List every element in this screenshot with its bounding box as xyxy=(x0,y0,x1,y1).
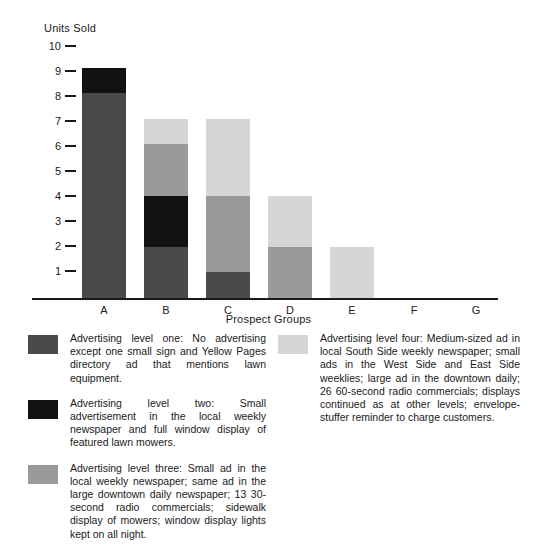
bar-stack xyxy=(330,247,374,298)
bar-segment-c-level-1 xyxy=(206,272,250,298)
bar-column-a xyxy=(82,40,126,298)
y-tick-label: 8 xyxy=(55,90,61,102)
bar-column-d xyxy=(268,40,312,298)
legend-item: Advertising level four: Medium-sized ad … xyxy=(278,332,520,424)
y-tick-label: 4 xyxy=(55,190,61,202)
bar-stack xyxy=(144,119,188,298)
y-axis: 10 9 8 7 6 5 4 3 2 1 xyxy=(0,0,76,330)
y-tick-3: 3 xyxy=(55,215,76,227)
y-tick-4: 4 xyxy=(55,190,76,202)
y-tick-label: 1 xyxy=(55,265,61,277)
tick-mark-icon xyxy=(65,70,76,72)
bar-segment-a-level-1 xyxy=(82,93,126,298)
bar-segment-d-level-3 xyxy=(268,247,312,298)
bar-column-f xyxy=(392,40,436,298)
stacked-bar-chart: Units Sold 10 9 8 7 6 5 4 3 2 1 ABCDEFG … xyxy=(0,0,537,330)
legend-swatch-icon xyxy=(28,465,58,484)
tick-mark-icon xyxy=(65,95,76,97)
tick-mark-icon xyxy=(65,245,76,247)
bar-column-b xyxy=(144,40,188,298)
tick-mark-icon xyxy=(65,195,76,197)
y-tick-8: 8 xyxy=(55,90,76,102)
y-tick-label: 10 xyxy=(49,40,61,52)
tick-mark-icon xyxy=(65,220,76,222)
y-tick-label: 6 xyxy=(55,140,61,152)
y-tick-9: 9 xyxy=(55,65,76,77)
legend-item: Advertising level two: Small advertiseme… xyxy=(28,397,266,450)
bar-column-g xyxy=(454,40,498,298)
legend-item-label: Advertising level four: Medium-sized ad … xyxy=(320,332,520,424)
tick-mark-icon xyxy=(65,270,76,272)
y-tick-7: 7 xyxy=(55,115,76,127)
chart-legend: Advertising level one: No advertising ex… xyxy=(0,332,537,497)
legend-swatch-icon xyxy=(278,335,308,354)
legend-item-label: Advertising level one: No advertising ex… xyxy=(70,332,266,385)
bar-segment-d-level-4 xyxy=(268,196,312,247)
legend-item: Advertising level three: Small ad in the… xyxy=(28,462,266,541)
bar-segment-c-level-3 xyxy=(206,196,250,273)
bar-segment-b-level-4 xyxy=(144,119,188,145)
y-tick-label: 2 xyxy=(55,240,61,252)
x-axis-baseline xyxy=(32,298,498,300)
legend-item: Advertising level one: No advertising ex… xyxy=(28,332,266,385)
bar-column-c xyxy=(206,40,250,298)
tick-mark-icon xyxy=(65,45,76,47)
bar-segment-a-level-2 xyxy=(82,68,126,94)
legend-column-right: Advertising level four: Medium-sized ad … xyxy=(278,332,520,436)
bar-segment-e-level-4 xyxy=(330,247,374,298)
y-tick-5: 5 xyxy=(55,165,76,177)
legend-swatch-icon xyxy=(28,335,58,354)
legend-column-left: Advertising level one: No advertising ex… xyxy=(28,332,266,544)
bar-segment-b-level-3 xyxy=(144,144,188,195)
bar-stack xyxy=(206,119,250,298)
y-tick-label: 5 xyxy=(55,165,61,177)
bar-segment-c-level-4 xyxy=(206,119,250,196)
x-axis-title: Prospect Groups xyxy=(0,313,537,325)
y-tick-label: 7 xyxy=(55,115,61,127)
legend-item-label: Advertising level three: Small ad in the… xyxy=(70,462,266,541)
bar-column-e xyxy=(330,40,374,298)
tick-mark-icon xyxy=(65,145,76,147)
bar-segment-b-level-1 xyxy=(144,247,188,298)
y-tick-6: 6 xyxy=(55,140,76,152)
tick-mark-icon xyxy=(65,120,76,122)
tick-mark-icon xyxy=(65,170,76,172)
y-tick-label: 9 xyxy=(55,65,61,77)
bar-stack xyxy=(268,196,312,298)
y-tick-1: 1 xyxy=(55,265,76,277)
bar-stack xyxy=(82,68,126,298)
y-tick-10: 10 xyxy=(49,40,76,52)
legend-item-label: Advertising level two: Small advertiseme… xyxy=(70,397,266,450)
y-tick-2: 2 xyxy=(55,240,76,252)
y-tick-label: 3 xyxy=(55,215,61,227)
bar-segment-b-level-2 xyxy=(144,196,188,247)
legend-swatch-icon xyxy=(28,400,58,419)
